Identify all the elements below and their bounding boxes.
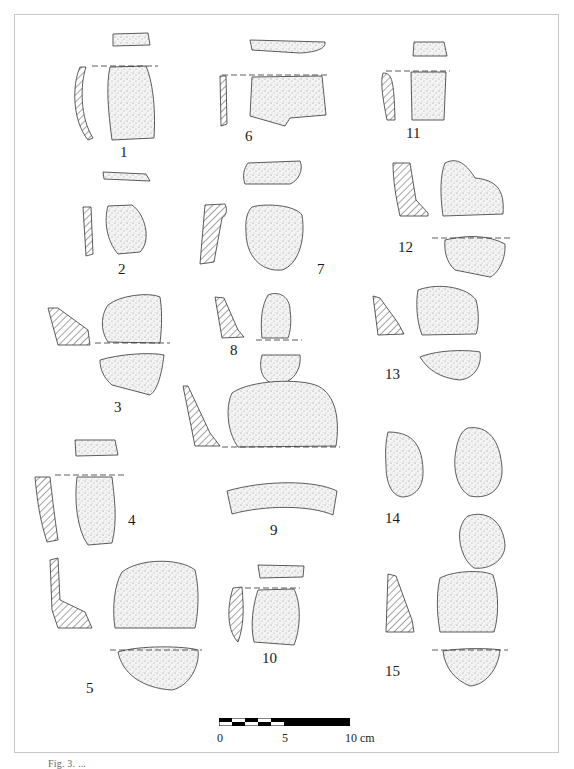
figure-label-8: 8: [230, 343, 238, 358]
sherd-11: [382, 42, 450, 120]
sherd-8: [215, 293, 302, 384]
figure-label-2: 2: [118, 262, 126, 277]
sherd-14: [386, 428, 505, 569]
scale-tick-10: 10 cm: [345, 731, 375, 746]
figure-caption: Fig. 3. ...: [48, 758, 86, 769]
scale-tick-0: 0: [217, 731, 223, 746]
figure-label-4: 4: [128, 513, 136, 528]
sherd-1: [75, 33, 158, 140]
figure-label-1: 1: [120, 145, 128, 160]
sherd-4: [35, 440, 124, 545]
scale-tick-5: 5: [282, 731, 288, 746]
figure-label-12: 12: [398, 240, 413, 255]
figure-label-11: 11: [406, 126, 420, 141]
figure-label-14: 14: [385, 511, 400, 526]
figure-label-9: 9: [270, 523, 278, 538]
scale-bar: [219, 718, 350, 726]
figure-label-5: 5: [86, 681, 94, 696]
figure-label-7: 7: [317, 262, 325, 277]
figure-label-3: 3: [114, 400, 122, 415]
sherd-9: [183, 381, 340, 515]
figure-label-10: 10: [262, 651, 277, 666]
sherd-3: [48, 295, 170, 395]
figure-label-6: 6: [245, 129, 253, 144]
sherd-2: [83, 172, 150, 256]
sherd-10: [229, 565, 304, 645]
sherd-7: [200, 161, 303, 270]
sherd-6: [220, 40, 330, 126]
figure-label-15: 15: [385, 664, 400, 679]
sherd-5: [50, 558, 202, 690]
figure-label-13: 13: [385, 367, 400, 382]
sherd-12: [393, 161, 512, 277]
sherd-15: [386, 572, 508, 686]
